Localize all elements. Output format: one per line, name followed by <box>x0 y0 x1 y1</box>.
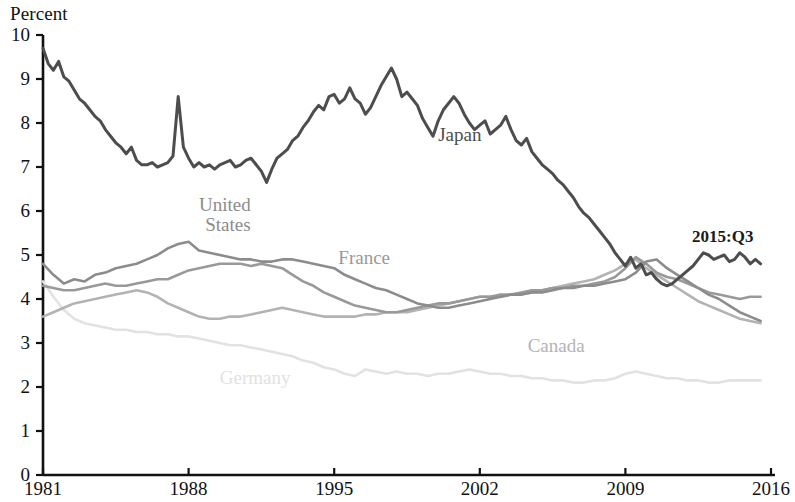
series-label-united-states-line2: States <box>205 214 250 235</box>
chart-plot-area <box>0 0 795 502</box>
y-tick-label: 4 <box>4 289 30 308</box>
series-label-japan: Japan <box>438 124 481 145</box>
x-tick-label: 2016 <box>736 479 795 498</box>
y-tick-label: 8 <box>4 113 30 132</box>
series-label-united-states-line1: United <box>199 194 251 215</box>
y-tick-label: 1 <box>4 421 30 440</box>
series-line-japan <box>43 48 761 286</box>
y-tick-label: 3 <box>4 333 30 352</box>
x-tick-label: 1995 <box>299 479 369 498</box>
series-label-canada: Canada <box>528 335 585 356</box>
y-tick-label: 10 <box>4 25 30 44</box>
y-tick-label: 9 <box>4 69 30 88</box>
x-tick-label: 2002 <box>445 479 515 498</box>
y-tick-label: 7 <box>4 157 30 176</box>
series-label-germany: Germany <box>220 367 291 388</box>
x-tick-label: 2009 <box>590 479 660 498</box>
series-line-france <box>43 257 761 312</box>
chart-figure: Percent 109876543210 1981198819952002200… <box>0 0 795 502</box>
annotation-2015q3: 2015:Q3 <box>692 228 753 246</box>
series-label-france: France <box>338 247 390 268</box>
x-tick-label: 1981 <box>8 479 78 498</box>
y-tick-label: 5 <box>4 245 30 264</box>
y-tick-label: 6 <box>4 201 30 220</box>
x-tick-label: 1988 <box>154 479 224 498</box>
y-tick-label: 2 <box>4 377 30 396</box>
